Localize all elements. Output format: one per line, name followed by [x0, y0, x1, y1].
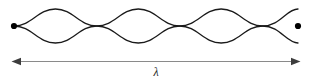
figure-canvas: λ: [0, 0, 313, 81]
right-node-dot: [295, 23, 301, 29]
left-node-dot: [11, 23, 17, 29]
standing-wave-figure: λ: [0, 0, 313, 81]
wavelength-label: λ: [152, 65, 158, 79]
